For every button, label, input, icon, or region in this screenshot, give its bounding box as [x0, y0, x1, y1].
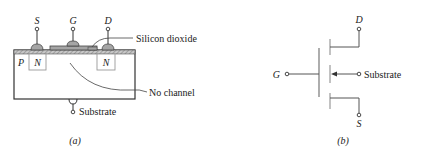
drain-terminal-b — [357, 27, 361, 31]
caption-a: (a) — [69, 135, 81, 147]
oxide-layer — [14, 50, 135, 54]
caption-b: (b) — [337, 135, 349, 147]
drain-label-b: D — [354, 14, 363, 25]
source-terminal-b — [357, 113, 361, 117]
source-terminal — [35, 27, 39, 31]
source-label: S — [35, 15, 40, 26]
silicon-dioxide-label: Silicon dioxide — [136, 33, 197, 44]
substrate-terminal-b — [357, 72, 361, 76]
no-channel-label: No channel — [149, 87, 195, 98]
gate-terminal — [71, 27, 75, 31]
source-contact — [31, 44, 43, 50]
substrate-contact — [69, 99, 77, 104]
panel-b-circuit-symbol: D G Substrate S (b) — [273, 14, 402, 147]
source-label-b: S — [357, 118, 362, 129]
drain-terminal — [106, 27, 110, 31]
drain-contact — [102, 44, 114, 50]
substrate-terminal — [71, 110, 75, 114]
panel-a-cross-section: S G D P N N Silicon dioxide No channel S… — [14, 15, 197, 147]
p-region-label: P — [17, 57, 24, 68]
substrate-label-a: Substrate — [79, 106, 117, 117]
drain-label: D — [103, 15, 112, 26]
drain-n-label: N — [102, 57, 111, 68]
source-n-label: N — [33, 57, 42, 68]
gate-terminal-b — [285, 72, 289, 76]
substrate-arrow-icon — [331, 72, 337, 77]
mosfet-figure: S G D P N N Silicon dioxide No channel S… — [0, 0, 422, 154]
substrate-label-b: Substrate — [364, 69, 402, 80]
gate-label-b: G — [273, 69, 280, 80]
gate-contact — [67, 41, 79, 46]
gate-label: G — [69, 15, 76, 26]
